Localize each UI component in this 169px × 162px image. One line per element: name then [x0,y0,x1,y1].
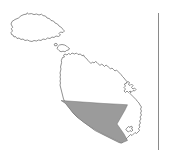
map-figure [0,0,169,162]
grand-harbour-inlets [124,82,136,93]
map-svg [0,0,169,162]
island-gozo [11,13,65,42]
shaded-district-region [61,101,128,144]
island-cominotto [55,43,58,46]
island-comino [58,45,70,52]
